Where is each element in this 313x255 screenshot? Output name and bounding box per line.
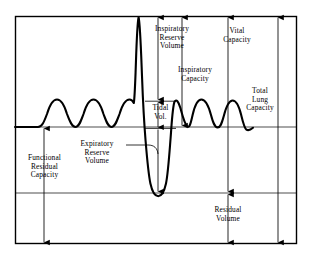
label-functional-residual-capacity: Functional Residual Capacity [16, 154, 73, 180]
label-residual-volume: Residual Volume [205, 206, 251, 223]
label-vital-capacity: Vital Capacity [214, 27, 260, 44]
label-inspiratory-reserve-volume: Inspiratory Reserve Volume [143, 25, 201, 51]
label-expiratory-reserve-volume: Expiratory Reserve Volume [68, 140, 126, 166]
label-inspiratory-capacity: Inspiratory Capacity [167, 66, 223, 83]
spirogram-diagram: Inspiratory Reserve Volume Inspiratory C… [0, 0, 313, 255]
label-tidal-volume: Tidal Vol. [145, 104, 176, 121]
erv-leader-line [126, 145, 158, 154]
label-total-lung-capacity: Total Lung Capacity [237, 87, 283, 113]
